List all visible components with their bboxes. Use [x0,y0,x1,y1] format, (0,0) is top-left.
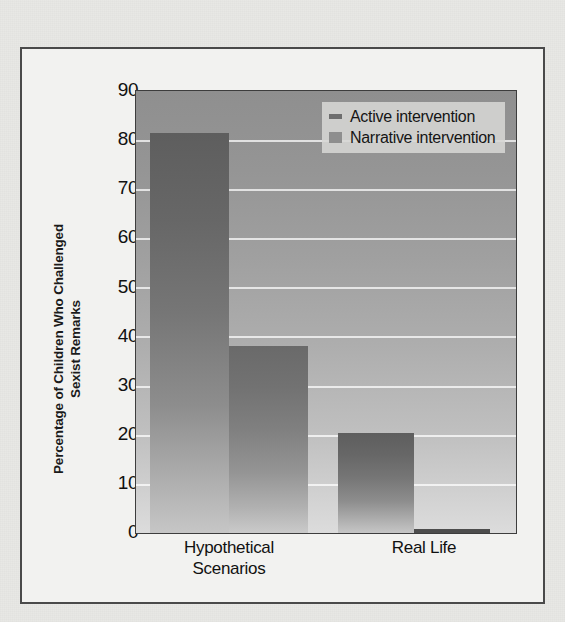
legend-swatch-active-icon [329,114,342,119]
y-tick-10: 10 [102,473,138,492]
y-tick-40: 40 [102,326,138,345]
x-label-hypothetical: Hypothetical Scenarios [135,537,323,579]
bar-reallife-active [338,433,414,533]
y-tick-60: 60 [102,227,138,246]
y-tick-20: 20 [102,424,138,443]
y-tick-30: 30 [102,375,138,394]
legend-label-active: Active intervention [350,108,475,126]
plot-area: Active intervention Narrative interventi… [135,90,517,534]
y-axis-title-line2: Sexist Remarks [67,139,84,559]
y-axis-ticks: 90 80 70 60 50 40 30 20 10 0 [98,49,138,606]
bar-reallife-narrative [414,529,490,533]
bar-hypothetical-narrative [229,346,308,533]
legend: Active intervention Narrative interventi… [322,102,505,153]
legend-item-narrative: Narrative intervention [329,127,495,148]
x-axis-labels: Hypothetical Scenarios Real Life [135,537,517,597]
y-tick-50: 50 [102,277,138,296]
y-axis-title: Percentage of Children Who Challenged Se… [50,0,90,139]
x-label-reallife: Real Life [331,537,517,558]
y-tick-90: 90 [102,80,138,99]
figure-frame: Percentage of Children Who Challenged Se… [20,47,545,604]
x-label-reallife-line1: Real Life [331,537,517,558]
legend-swatch-narrative-icon [329,132,342,143]
y-tick-70: 70 [102,178,138,197]
x-label-hypothetical-line2: Scenarios [135,558,323,579]
bar-hypothetical-active [150,133,229,533]
y-tick-0: 0 [102,522,138,541]
y-axis-title-line1: Percentage of Children Who Challenged [50,139,67,559]
x-label-hypothetical-line1: Hypothetical [135,537,323,558]
legend-item-active: Active intervention [329,106,495,127]
y-tick-80: 80 [102,129,138,148]
legend-label-narrative: Narrative intervention [350,129,495,147]
